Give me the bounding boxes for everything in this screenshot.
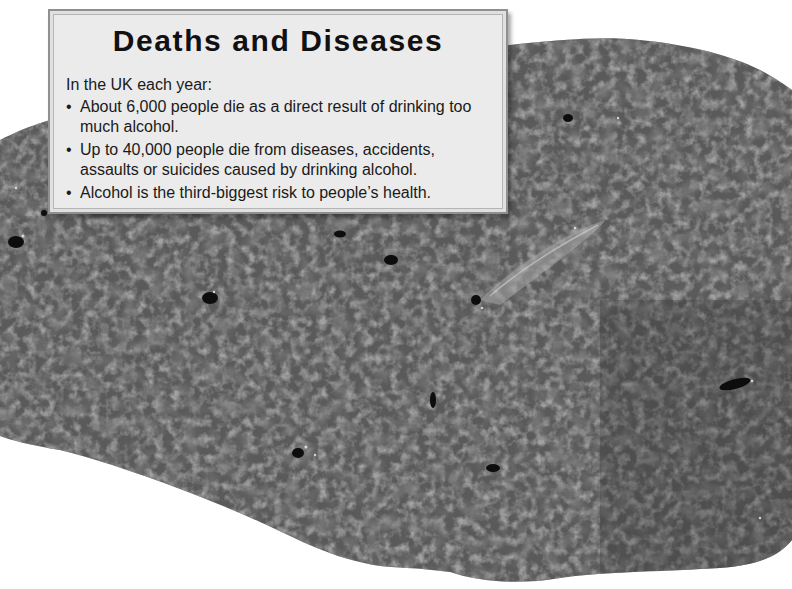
bullet-icon: • xyxy=(66,140,72,160)
info-box: Deaths and Diseases In the UK each year:… xyxy=(48,9,508,214)
list-item: • About 6,000 people die as a direct res… xyxy=(66,97,496,137)
list-item: • Up to 40,000 people die from diseases,… xyxy=(66,140,496,180)
info-box-intro: In the UK each year: xyxy=(66,76,212,94)
info-box-list: • About 6,000 people die as a direct res… xyxy=(66,97,496,206)
list-item: • Alcohol is the third-biggest risk to p… xyxy=(66,183,496,203)
list-item-text: Up to 40,000 people die from diseases, a… xyxy=(80,141,435,178)
list-item-text: Alcohol is the third-biggest risk to peo… xyxy=(80,184,431,201)
list-item-text: About 6,000 people die as a direct resul… xyxy=(80,98,471,135)
bullet-icon: • xyxy=(66,183,72,203)
bullet-icon: • xyxy=(66,97,72,117)
info-box-title: Deaths and Diseases xyxy=(50,24,506,58)
